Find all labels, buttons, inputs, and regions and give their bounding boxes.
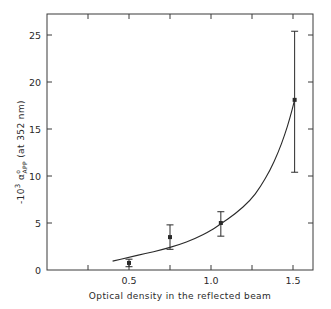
y-tick-label: 20	[29, 77, 41, 88]
point-marker	[219, 221, 223, 225]
y-tick-label: 5	[35, 218, 41, 229]
data-point	[291, 31, 298, 172]
data-point	[126, 259, 133, 267]
x-axis-label: Optical density in the reflected beam	[89, 291, 271, 301]
plot-frame	[47, 14, 313, 270]
plot-border	[47, 14, 313, 270]
x-tick-label: 1.0	[203, 275, 218, 286]
ylabel-symbol: α	[16, 174, 26, 184]
chart-container: 0.51.01.5 0510152025 Optical density in …	[0, 0, 331, 309]
y-axis-label-text: -103 αoAPP (at 352 nm)	[14, 100, 28, 204]
ylabel-prefix: -10	[16, 188, 26, 204]
data-point	[217, 212, 224, 236]
data-point	[167, 225, 174, 249]
y-tick-label: 25	[29, 30, 41, 41]
ylabel-symbol-sub: APP	[21, 161, 28, 174]
point-marker	[168, 235, 172, 239]
fitted-curve	[113, 100, 295, 261]
point-marker	[293, 98, 297, 102]
y-tick-label: 15	[29, 124, 41, 135]
y-tick-label: 10	[29, 171, 41, 182]
x-tick-label: 0.5	[121, 275, 136, 286]
data-points	[126, 31, 299, 266]
point-marker	[127, 261, 131, 265]
ylabel-symbol-sup: o	[14, 170, 21, 174]
curve-path	[113, 100, 295, 261]
x-tick-label: 1.5	[285, 275, 300, 286]
chart-svg: 0.51.01.5 0510152025 Optical density in …	[0, 0, 331, 309]
x-axis-ticks: 0.51.01.5	[88, 14, 301, 286]
y-tick-label: 0	[35, 265, 41, 276]
ylabel-suffix: (at 352 nm)	[16, 100, 26, 161]
y-axis-label: -103 αoAPP (at 352 nm)	[14, 100, 28, 204]
